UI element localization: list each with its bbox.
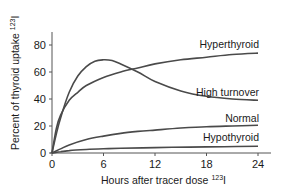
- label-hypothyroid: Hypothyroid: [203, 131, 259, 143]
- x-tick-label: 0: [49, 158, 55, 170]
- y-tick-label: 40: [34, 93, 46, 105]
- x-axis: 06121824 Hours after tracer dose123I: [49, 153, 271, 186]
- thyroid-uptake-chart: 020406080 Percent of thyroid uptake123I …: [0, 0, 286, 191]
- x-tick-label: 6: [100, 158, 106, 170]
- x-tick-label: 12: [149, 158, 161, 170]
- y-tick-group: 020406080: [34, 39, 52, 159]
- x-tick-label: 24: [252, 158, 264, 170]
- x-tick-label: 18: [200, 158, 212, 170]
- x-tick-group: 06121824: [49, 153, 264, 170]
- y-axis-label: Percent of thyroid uptake123I: [9, 16, 21, 150]
- curve-hypothyroid: [52, 146, 258, 153]
- y-tick-label: 20: [34, 120, 46, 132]
- y-tick-label: 60: [34, 66, 46, 78]
- y-tick-label: 80: [34, 39, 46, 51]
- x-axis-label: Hours after tracer dose123I: [101, 174, 226, 186]
- label-high-turnover: High turnover: [196, 86, 260, 98]
- label-normal: Normal: [225, 112, 259, 124]
- y-tick-label: 0: [40, 147, 46, 159]
- y-axis: 020406080 Percent of thyroid uptake123I: [9, 16, 52, 159]
- label-hyperthyroid: Hyperthyroid: [199, 38, 259, 50]
